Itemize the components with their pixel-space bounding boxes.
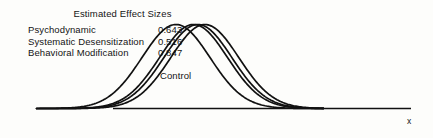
curve-behavioral-modification [37, 25, 324, 109]
distribution-curves-plot [0, 0, 433, 138]
curve-control [37, 24, 324, 108]
curve-layer [37, 24, 324, 108]
curve-psychodynamic [37, 25, 324, 109]
control-curve-label: Control [160, 70, 191, 81]
curve-systematic-desensitization [37, 24, 324, 108]
x-axis-label: x [407, 116, 411, 126]
estimated-effect-sizes-figure: Estimated Effect Sizes Psychodynamic 0.6… [0, 0, 433, 138]
